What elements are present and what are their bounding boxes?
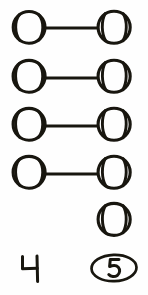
right-ball-3 (98, 108, 130, 140)
right-count-numeral (91, 254, 137, 282)
left-ball-2 (13, 60, 45, 92)
left-ball-4 (13, 156, 45, 188)
left-ball-1 (13, 12, 45, 44)
drawing-canvas: 4 5 One-to-one matching of circles (0, 0, 148, 295)
right-ball-1 (98, 11, 130, 43)
right-ball-4 (98, 156, 130, 188)
figure-svg (0, 0, 148, 295)
right-ball-2 (98, 60, 130, 92)
left-count-numeral (23, 256, 38, 282)
left-ball-3 (13, 108, 45, 140)
right-ball-5-unmatched (98, 203, 130, 235)
connector-group (45, 28, 99, 174)
